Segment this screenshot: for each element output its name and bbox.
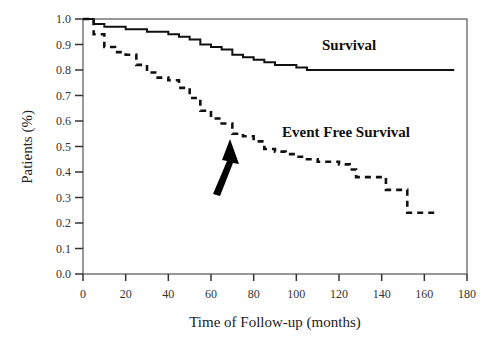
efs-label: Event Free Survival [282, 124, 410, 140]
efs-curve [83, 19, 439, 213]
y-axis: 0.00.10.20.30.40.50.60.70.80.91.0 [56, 12, 83, 281]
y-tick-label: 1.0 [56, 12, 71, 26]
x-tick-label: 20 [120, 287, 132, 301]
y-tick-label: 0.4 [56, 165, 71, 179]
y-tick-label: 0.0 [56, 267, 71, 281]
y-tick-label: 0.3 [56, 191, 71, 205]
y-tick-label: 0.9 [56, 38, 71, 52]
x-tick-label: 180 [458, 287, 476, 301]
y-tick-label: 0.6 [56, 114, 71, 128]
x-tick-label: 0 [80, 287, 86, 301]
arrow-annotation-icon [213, 139, 239, 196]
x-tick-label: 80 [248, 287, 260, 301]
x-tick-label: 40 [162, 287, 174, 301]
x-tick-label: 120 [330, 287, 348, 301]
x-tick-label: 160 [415, 287, 433, 301]
survival-label: Survival [322, 37, 376, 53]
x-axis: 020406080100120140160180 [80, 274, 476, 301]
y-tick-label: 0.5 [56, 140, 71, 154]
y-tick-label: 0.8 [56, 63, 71, 77]
survival-curve [83, 19, 454, 70]
x-tick-label: 100 [287, 287, 305, 301]
y-tick-label: 0.2 [56, 216, 71, 230]
x-axis-title: Time of Follow-up (months) [189, 314, 361, 331]
series-group [83, 19, 454, 213]
y-axis-title: Patients (%) [19, 110, 36, 184]
x-tick-label: 60 [205, 287, 217, 301]
survival-chart: 0.00.10.20.30.40.50.60.70.80.91.0 020406… [0, 0, 486, 343]
x-tick-label: 140 [373, 287, 391, 301]
y-tick-label: 0.7 [56, 89, 71, 103]
y-tick-label: 0.1 [56, 242, 71, 256]
plot-frame [83, 19, 467, 274]
